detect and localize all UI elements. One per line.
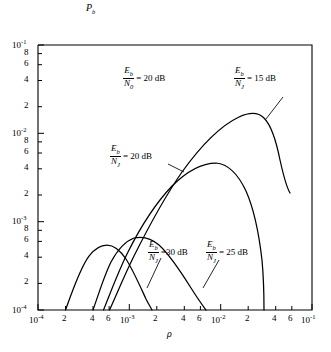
y-tick-exponent: -3 xyxy=(21,214,26,221)
x-tick-mantissa: 10 xyxy=(29,315,38,325)
fraction-eb-nj: Eb NJ xyxy=(206,240,217,264)
annotation-value: = 20 dB xyxy=(121,151,152,161)
fraction-denominator: NJ xyxy=(234,79,245,91)
x-tick-label-1e-1: 10-1 xyxy=(301,313,315,325)
x-minor-2a: 2 xyxy=(62,313,67,323)
y-minor-2c: 2 xyxy=(24,276,29,286)
y-tick-exponent: -2 xyxy=(21,126,26,133)
y-axis-ticks xyxy=(38,45,44,310)
y-tick-mantissa: 10 xyxy=(12,128,21,138)
x-tick-label-1e-4: 10-4 xyxy=(29,313,43,325)
fraction-eb-n0: Eb N0 xyxy=(123,66,134,90)
x-axis-title: ρ xyxy=(167,328,172,339)
curve-eb-nj-20db xyxy=(104,163,265,310)
denominator-subscript: J xyxy=(213,256,216,263)
numerator-subscript: b xyxy=(130,70,133,77)
y-tick-mantissa: 10 xyxy=(12,216,21,226)
fraction-denominator: NJ xyxy=(110,157,121,169)
x-tick-exponent: -4 xyxy=(38,313,43,320)
x-tick-label-1e-2: 10-2 xyxy=(211,313,225,325)
y-minor-6a: 6 xyxy=(24,58,29,68)
numerator-subscript: b xyxy=(155,244,158,251)
denominator-subscript: J xyxy=(117,160,120,167)
x-tick-mantissa: 10 xyxy=(301,315,310,325)
fraction-eb-nj: Eb NJ xyxy=(110,144,121,168)
x-minor-2b: 2 xyxy=(153,313,158,323)
annotation-eb-nj-25db: Eb NJ = 25 dB xyxy=(206,240,248,264)
annotation-eb-nj-20db: Eb NJ = 20 dB xyxy=(110,144,152,168)
y-tick-label-1e-4: 10-4 xyxy=(12,303,26,315)
annotation-eb-nj-30db: Eb NJ =30 dB xyxy=(148,240,188,264)
fraction-denominator: NJ xyxy=(206,253,217,265)
y-minor-2a: 2 xyxy=(24,100,29,110)
x-minor-6c: 6 xyxy=(288,313,293,323)
x-minor-4c: 4 xyxy=(272,313,277,323)
numerator-subscript: b xyxy=(213,244,216,251)
y-minor-6b: 6 xyxy=(24,146,29,156)
x-minor-6b: 6 xyxy=(197,313,202,323)
y-tick-mantissa: 10 xyxy=(12,305,21,315)
fraction-denominator: NJ xyxy=(148,253,159,265)
y-minor-6c: 6 xyxy=(24,234,29,244)
y-minor-8c: 8 xyxy=(24,223,29,233)
y-tick-exponent: -1 xyxy=(21,38,26,45)
x-tick-exponent: -3 xyxy=(129,313,134,320)
x-minor-4a: 4 xyxy=(90,313,95,323)
annotation-eb-n0-20db: Eb N0 = 20 dB xyxy=(123,66,165,90)
figure-bit-error-probability-chart: Pb xyxy=(0,0,331,352)
leader-eb-nj-15db xyxy=(266,97,283,119)
annotation-eb-nj-15db: Eb NJ = 15 dB xyxy=(234,66,276,90)
y-minor-4a: 4 xyxy=(24,74,29,84)
annotation-value: = 15 dB xyxy=(245,73,276,83)
curve-eb-nj-30db xyxy=(66,245,153,310)
x-tick-exponent: -1 xyxy=(310,313,315,320)
y-minor-4c: 4 xyxy=(24,250,29,260)
leader-eb-nj-20db xyxy=(168,164,184,172)
y-minor-8b: 8 xyxy=(24,135,29,145)
plot-canvas xyxy=(0,0,331,352)
annotation-value: = 25 dB xyxy=(217,247,248,257)
x-tick-label-1e-3: 10-3 xyxy=(120,313,134,325)
x-tick-mantissa: 10 xyxy=(211,315,220,325)
x-tick-exponent: -2 xyxy=(220,313,225,320)
x-axis-ticks xyxy=(38,304,312,310)
numerator-subscript: b xyxy=(117,148,120,155)
annotation-value: =30 dB xyxy=(159,247,188,257)
x-minor-6a: 6 xyxy=(106,313,111,323)
denominator-subscript: J xyxy=(241,82,244,89)
y-tick-mantissa: 10 xyxy=(12,40,21,50)
fraction-denominator: N0 xyxy=(123,79,134,91)
numerator-subscript: b xyxy=(241,70,244,77)
x-minor-2c: 2 xyxy=(245,313,250,323)
annotation-value: = 20 dB xyxy=(134,73,165,83)
y-minor-8a: 8 xyxy=(24,47,29,57)
fraction-eb-nj: Eb NJ xyxy=(148,240,159,264)
y-minor-4b: 4 xyxy=(24,162,29,172)
x-minor-4b: 4 xyxy=(181,313,186,323)
y-minor-2b: 2 xyxy=(24,188,29,198)
denominator-subscript: J xyxy=(155,256,158,263)
x-tick-mantissa: 10 xyxy=(120,315,129,325)
fraction-eb-nj: Eb NJ xyxy=(234,66,245,90)
y-tick-exponent: -4 xyxy=(21,303,26,310)
denominator-subscript: 0 xyxy=(130,82,133,89)
